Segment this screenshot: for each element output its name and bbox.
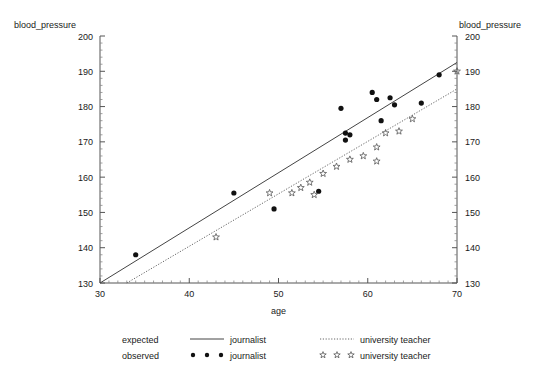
data-point [316, 189, 321, 194]
data-point [437, 72, 442, 77]
data-point [373, 158, 380, 165]
y-tick-label-left: 200 [78, 32, 93, 42]
data-point [213, 234, 220, 241]
chart-canvas: 1301301401401501501601601701701801801901… [0, 0, 550, 373]
y-tick-label-right: 170 [465, 137, 480, 147]
data-point [271, 206, 276, 211]
data-point [370, 90, 375, 95]
data-point [338, 106, 343, 111]
series-university-teacher [213, 68, 461, 240]
y-tick-label-left: 160 [78, 173, 93, 183]
x-tick-label: 70 [452, 289, 462, 299]
data-point [419, 100, 424, 105]
y-tick-label-left: 130 [78, 279, 93, 289]
legend-row-expected: expectedjournalistuniversity teacher [122, 335, 431, 345]
data-point [343, 137, 348, 142]
y-tick-label-right: 180 [465, 102, 480, 112]
legend-entry-name: journalist [229, 335, 267, 345]
y-tick-label-right: 160 [465, 173, 480, 183]
x-tick-label: 50 [273, 289, 283, 299]
data-point [266, 189, 273, 196]
data-point [231, 190, 236, 195]
y-tick-label-left: 180 [78, 102, 93, 112]
data-point [374, 97, 379, 102]
data-point [387, 95, 392, 100]
y-tick-label-left: 150 [78, 208, 93, 218]
data-point [343, 130, 348, 135]
fit-line-university-teacher [127, 89, 457, 283]
x-tick-label: 60 [363, 289, 373, 299]
legend-marker-star [348, 352, 354, 358]
data-point [396, 128, 403, 135]
data-point [347, 132, 352, 137]
data-point [346, 156, 353, 163]
y-axis-title-right: blood_pressure [459, 20, 521, 30]
legend-marker-star [320, 352, 326, 358]
legend-entry-name: university teacher [360, 351, 431, 361]
data-point [306, 179, 313, 186]
legend-row-label: observed [122, 351, 159, 361]
data-point [333, 163, 340, 170]
legend-entry-name: university teacher [360, 335, 431, 345]
y-tick-label-right: 130 [465, 279, 480, 289]
fit-line-journalist [100, 62, 457, 283]
legend-marker-dot [191, 353, 195, 357]
y-tick-label-right: 200 [465, 32, 480, 42]
x-axis-title: age [271, 306, 286, 316]
legend-entry-name: journalist [229, 351, 267, 361]
data-point [382, 129, 389, 136]
y-tick-label-right: 190 [465, 67, 480, 77]
x-tick-label: 30 [95, 289, 105, 299]
data-point [360, 152, 367, 159]
data-point [288, 189, 295, 196]
data-point [392, 102, 397, 107]
data-point [297, 184, 304, 191]
data-point [373, 144, 380, 151]
legend-marker-dot [219, 353, 223, 357]
y-tick-label-left: 190 [78, 67, 93, 77]
y-tick-label-right: 150 [465, 208, 480, 218]
scatter-plot-figure: 1301301401401501501601601701701801801901… [0, 0, 550, 373]
legend-marker-star [334, 352, 340, 358]
x-tick-label: 40 [184, 289, 194, 299]
data-point [320, 170, 327, 177]
legend-marker-dot [205, 353, 209, 357]
legend-row-label: expected [122, 335, 159, 345]
data-point [133, 252, 138, 257]
y-tick-label-left: 170 [78, 137, 93, 147]
y-axis-title-left: blood_pressure [14, 20, 76, 30]
data-point [379, 118, 384, 123]
legend-row-observed: observedjournalistuniversity teacher [122, 351, 431, 361]
y-tick-label-left: 140 [78, 243, 93, 253]
y-tick-label-right: 140 [465, 243, 480, 253]
